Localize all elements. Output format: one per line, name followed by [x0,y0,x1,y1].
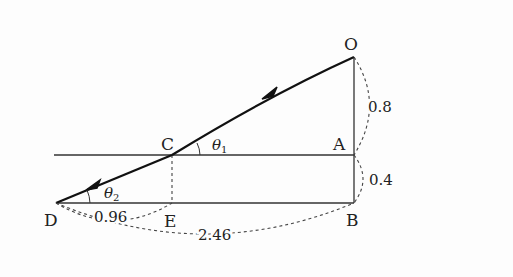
dimension-label-oa: 0.8 [368,98,392,116]
point-label-b: B [346,210,359,230]
angle-arc-theta1 [197,143,200,155]
dimension-label-db: 2.46 [198,226,231,244]
point-label-c: C [161,134,174,154]
dimension-label-de: 0.96 [94,208,127,226]
geometry-figure: O A B C D E θ1 θ2 0.8 0.4 0.96 2.46 [0,0,513,277]
angle-arc-theta2 [87,190,90,203]
dimension-label-ab: 0.4 [369,171,393,189]
diagram-canvas: O A B C D E θ1 θ2 0.8 0.4 0.96 2.46 [0,0,513,277]
angle-label-theta2: θ2 [104,184,119,203]
trajectory-oc [172,57,354,155]
dimension-arc-ab [354,155,363,203]
angle-label-theta1: θ1 [212,136,227,155]
point-label-a: A [332,134,346,154]
point-label-e: E [164,211,176,231]
arrow-icon-cd [86,180,100,190]
point-label-o: O [344,34,358,54]
point-label-d: D [44,210,58,230]
